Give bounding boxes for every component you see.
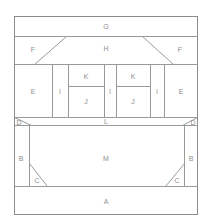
region-label-b-right: B: [189, 155, 194, 162]
region-label-j-1: J: [84, 98, 88, 105]
region-label-c-right: C: [174, 177, 179, 184]
region-label-f-right: F: [178, 46, 182, 53]
region-label-k-2: K: [131, 73, 136, 80]
panel-layout-diagram: G F H F E I K J I K J I E D L D B M C C …: [0, 0, 212, 219]
region-label-d-left: D: [16, 119, 21, 126]
region-label-i-2: I: [109, 88, 111, 95]
region-label-j-2: J: [131, 98, 135, 105]
region-label-m: M: [103, 155, 109, 162]
diagonal-f-right: [143, 37, 174, 65]
region-label-a: A: [104, 198, 109, 205]
region-label-c-left: C: [34, 177, 39, 184]
region-label-b-left: B: [19, 155, 24, 162]
region-label-l: L: [104, 118, 108, 125]
region-label-e-left: E: [31, 88, 36, 95]
region-label-e-right: E: [179, 88, 184, 95]
diagonal-f-left: [35, 37, 67, 65]
region-label-k-1: K: [84, 73, 89, 80]
region-label-i-1: I: [59, 88, 61, 95]
region-label-g: G: [103, 23, 108, 30]
region-label-i-3: I: [156, 88, 158, 95]
region-label-f-left: F: [31, 46, 35, 53]
region-label-d-right: D: [190, 119, 195, 126]
diagram-canvas: [0, 0, 212, 219]
region-label-h: H: [103, 45, 108, 52]
